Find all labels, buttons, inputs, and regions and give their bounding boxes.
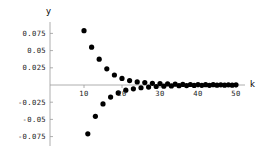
x-tick-label: 50	[224, 90, 248, 97]
data-point	[233, 82, 238, 87]
y-tick-label: -0.075	[2, 133, 46, 140]
data-point	[104, 66, 109, 71]
data-point	[93, 114, 98, 119]
x-tick-label: 20	[110, 90, 134, 97]
y-tick-label: 0.05	[2, 47, 46, 54]
x-tick-label: 10	[72, 90, 96, 97]
data-point	[97, 57, 102, 62]
data-point	[142, 80, 147, 85]
x-axis-label: k	[250, 80, 255, 89]
data-point	[138, 85, 143, 90]
x-tick-label: 30	[148, 90, 172, 97]
y-tick-label: -0.05	[2, 116, 46, 123]
data-point	[127, 78, 132, 83]
data-point	[81, 28, 86, 33]
x-tick-label: 40	[186, 90, 210, 97]
y-axis-label: y	[46, 7, 51, 16]
y-tick-label: -0.025	[2, 99, 46, 106]
data-point	[112, 72, 117, 77]
data-point	[146, 84, 151, 89]
data-points	[81, 28, 238, 136]
data-point	[85, 131, 90, 136]
data-point	[89, 45, 94, 50]
y-tick-label: 0.025	[2, 64, 46, 71]
y-tick-label: 0.075	[2, 30, 46, 37]
data-point	[119, 76, 124, 81]
data-point	[100, 101, 105, 106]
scatter-plot-figure: y k 0.0750.050.025-0.025-0.05-0.075 1020…	[0, 0, 270, 159]
data-point	[135, 79, 140, 84]
